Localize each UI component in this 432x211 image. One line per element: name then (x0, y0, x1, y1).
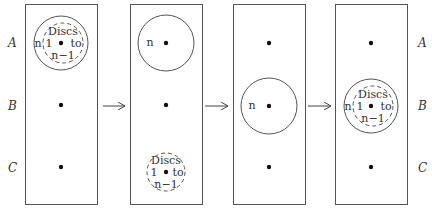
step-1-panel: Discs 1 to n−1 n (26, 5, 98, 205)
peg-b (267, 104, 271, 108)
disc-n-label: n (34, 37, 41, 50)
step-4-panel: Discs 1 to n−1 n (336, 5, 408, 205)
peg-label-c-right: C (418, 161, 427, 175)
peg-b (164, 103, 168, 107)
step-2-panel: n Discs 1 to n−1 (131, 5, 203, 205)
disc-n-minus-1-label: n−1 (51, 49, 74, 62)
peg-c (164, 170, 168, 174)
hanoi-diagram: A B C A B C Discs 1 to n−1 n n Discs 1 t… (0, 0, 432, 211)
peg-a (164, 41, 168, 45)
peg-a (267, 41, 271, 45)
disc-n-minus-1-label: n−1 (154, 178, 177, 191)
peg-b (369, 104, 373, 108)
disc-n-label: n (248, 99, 255, 112)
disc-n-minus-1-label: n−1 (361, 112, 384, 125)
peg-label-c-left: C (8, 161, 17, 175)
step-3-panel: n (234, 5, 306, 205)
peg-label-a-right: A (417, 36, 427, 50)
peg-c (369, 165, 373, 169)
peg-a (59, 41, 63, 45)
disc-n-label: n (344, 100, 351, 113)
peg-label-b-left: B (7, 99, 17, 113)
peg-c (267, 165, 271, 169)
peg-b (59, 103, 63, 107)
peg-c (59, 165, 63, 169)
disc-n-label: n (146, 36, 153, 49)
peg-label-a-left: A (7, 36, 17, 50)
peg-label-b-right: B (417, 99, 427, 113)
peg-a (369, 41, 373, 45)
